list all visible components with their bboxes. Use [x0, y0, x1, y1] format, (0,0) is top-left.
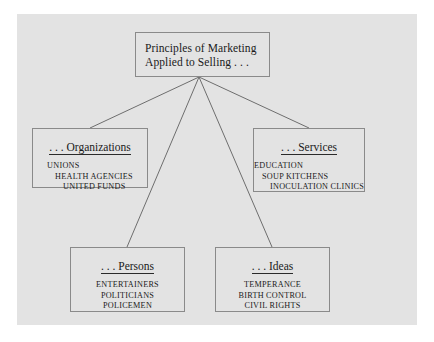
root-title-line-1: Principles of Marketing [145, 41, 257, 55]
list-item: INOCULATION CLINICS [254, 182, 364, 193]
node-ideas-heading-wrap: . . . Ideas [216, 256, 329, 274]
node-organizations: . . . Organizations UNIONS HEALTH AGENCI… [32, 128, 148, 188]
list-item: POLITICIANS [71, 291, 184, 302]
node-ideas-list: TEMPERANCE BIRTH CONTROL CIVIL RIGHTS [216, 280, 329, 312]
node-services-heading-wrap: . . . Services [254, 137, 364, 155]
node-persons: . . . Persons ENTERTAINERS POLITICIANS P… [70, 247, 185, 312]
node-ideas-heading: . . . Ideas [252, 259, 294, 274]
node-persons-list: ENTERTAINERS POLITICIANS POLICEMEN [71, 280, 184, 312]
figure-panel: Principles of Marketing Applied to Selli… [17, 14, 417, 325]
list-item: UNITED FUNDS [47, 182, 133, 193]
node-organizations-heading: . . . Organizations [49, 140, 131, 155]
node-root: Principles of Marketing Applied to Selli… [135, 32, 270, 77]
node-services-heading: . . . Services [281, 140, 337, 155]
node-organizations-list: UNIONS HEALTH AGENCIES UNITED FUNDS [47, 161, 133, 193]
list-item: BIRTH CONTROL [216, 291, 329, 302]
connector-root-to-services [199, 77, 309, 128]
list-item: HEALTH AGENCIES [47, 172, 133, 183]
node-persons-heading: . . . Persons [101, 259, 154, 274]
node-ideas: . . . Ideas TEMPERANCE BIRTH CONTROL CIV… [215, 247, 330, 312]
node-persons-heading-wrap: . . . Persons [71, 256, 184, 274]
node-organizations-heading-wrap: . . . Organizations [33, 137, 147, 155]
list-item: ENTERTAINERS [71, 280, 184, 291]
list-item: UNIONS [47, 161, 133, 172]
list-item: TEMPERANCE [216, 280, 329, 291]
list-item: SOUP KITCHENS [254, 172, 364, 183]
node-services-list: EDUCATION SOUP KITCHENS INOCULATION CLIN… [254, 161, 364, 193]
list-item: POLICEMEN [71, 301, 184, 312]
root-title-line-2: Applied to Selling . . . [145, 55, 257, 69]
connector-root-to-organizations [90, 77, 199, 128]
root-title: Principles of Marketing Applied to Selli… [145, 41, 257, 69]
node-services: . . . Services EDUCATION SOUP KITCHENS I… [253, 128, 365, 192]
list-item: EDUCATION [254, 161, 364, 172]
list-item: CIVIL RIGHTS [216, 301, 329, 312]
